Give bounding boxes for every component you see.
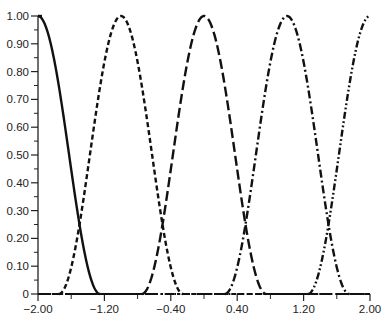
curve-2-line xyxy=(59,16,184,294)
curve-3-line xyxy=(142,16,267,294)
y-tick-label: 0.30 xyxy=(7,205,29,217)
y-tick-label: 0.90 xyxy=(7,38,29,50)
x-tick-label: 2.00 xyxy=(359,303,381,315)
y-tick-label: 0.10 xyxy=(7,260,29,272)
y-tick-label: 0.50 xyxy=(7,149,29,161)
y-tick-label: 0.60 xyxy=(7,121,29,133)
x-axis: −2.00−1.20−0.400.401.202.00 xyxy=(23,294,381,315)
x-tick-label: −2.00 xyxy=(23,303,52,315)
x-tick-label: 1.20 xyxy=(292,303,314,315)
y-tick-label: 0.70 xyxy=(7,93,29,105)
y-tick-label: 0.80 xyxy=(7,66,29,78)
series-group xyxy=(38,16,370,294)
y-tick-label: 0 xyxy=(23,288,29,300)
x-tick-label: 0.40 xyxy=(226,303,248,315)
chart: 00.100.200.300.400.500.600.700.800.901.0… xyxy=(0,0,387,321)
x-tick-label: −0.40 xyxy=(156,303,185,315)
y-tick-label: 0.20 xyxy=(7,232,29,244)
y-axis: 00.100.200.300.400.500.600.700.800.901.0… xyxy=(7,10,38,300)
y-tick-label: 1.00 xyxy=(7,10,29,22)
y-tick-label: 0.40 xyxy=(7,177,29,189)
x-tick-label: −1.20 xyxy=(90,303,119,315)
curve-4-line xyxy=(225,16,350,294)
